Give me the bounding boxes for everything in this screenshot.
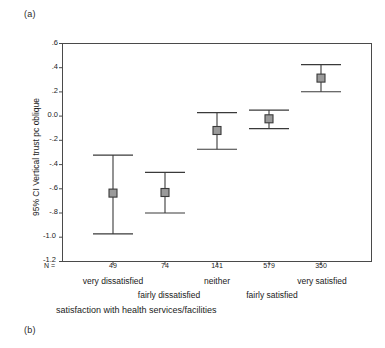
x-category-label-fairly-satisfied: fairly satisfied [246, 290, 298, 300]
group-count: 579 [263, 262, 275, 269]
mean-marker-2 [161, 189, 169, 197]
group-count: 74 [161, 262, 169, 269]
x-category-label-neither: neither [204, 276, 230, 286]
x-axis-title: satisfaction with health services/facili… [56, 305, 217, 315]
chart-figure: 95% CI Vertical trust pc oblique .6 .4 .… [0, 0, 385, 348]
group-count: 141 [211, 262, 223, 269]
x-category-label-very-dissatisfied: very dissatisfied [83, 276, 143, 286]
panel-b-label: (b) [24, 325, 36, 335]
mean-marker-1 [109, 189, 117, 197]
y-axis-ticks [59, 44, 63, 262]
mean-marker-5 [317, 74, 325, 82]
group-count: 49 [109, 262, 117, 269]
x-category-label-very-satisfied: very satisfied [297, 276, 347, 286]
mean-marker-3 [213, 127, 221, 135]
mean-marker-4 [265, 115, 273, 123]
group-count: 350 [315, 262, 327, 269]
x-category-label-fairly-dissatisfied: fairly dissatisfied [138, 290, 200, 300]
n-equals-label: N = [44, 262, 55, 269]
